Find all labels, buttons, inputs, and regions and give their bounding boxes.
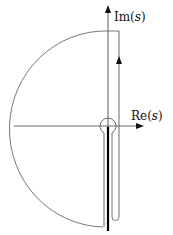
up-arrow-icon: [116, 56, 122, 64]
large-arc: [9, 31, 119, 227]
imaginary-axis-label: Im(s): [114, 10, 146, 24]
bottom-u-turn: [112, 133, 119, 221]
contour-diagram: Im(s) Re(s): [0, 0, 173, 235]
real-axis-label: Re(s): [131, 109, 163, 123]
